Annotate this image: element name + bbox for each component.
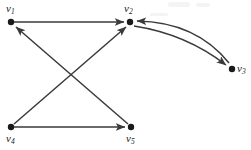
vertex-v1[interactable] bbox=[8, 19, 14, 25]
edge-v4-v2 bbox=[14, 27, 126, 124]
edge-v5-v1 bbox=[16, 27, 128, 124]
vertex-label-v3-subscript: 3 bbox=[242, 67, 246, 76]
directed-graph-figure: v1 v2 v3 v4 v5 bbox=[0, 0, 251, 150]
vertex-label-v2: v2 bbox=[124, 3, 133, 14]
vertex-layer bbox=[8, 19, 235, 130]
vertex-v4[interactable] bbox=[8, 124, 14, 130]
vertex-label-v3: v3 bbox=[237, 63, 246, 74]
edge-layer bbox=[14, 21, 229, 127]
vertex-label-v4-subscript: 4 bbox=[11, 137, 15, 146]
vertex-label-v1-subscript: 1 bbox=[11, 7, 15, 16]
vertex-label-v4: v4 bbox=[6, 133, 15, 144]
vertex-label-v5-subscript: 5 bbox=[131, 137, 135, 146]
vertex-label-v1: v1 bbox=[6, 3, 15, 14]
vertex-v5[interactable] bbox=[128, 124, 134, 130]
vertex-v3[interactable] bbox=[229, 66, 235, 72]
vertex-label-v5: v5 bbox=[126, 133, 135, 144]
graph-canvas bbox=[0, 0, 251, 150]
vertex-label-v2-subscript: 2 bbox=[129, 7, 133, 16]
vertex-v2[interactable] bbox=[127, 19, 133, 25]
